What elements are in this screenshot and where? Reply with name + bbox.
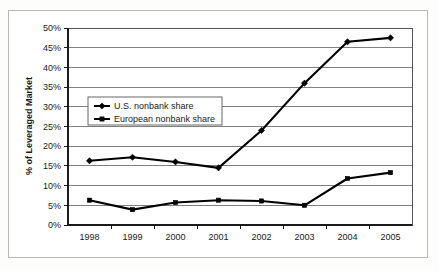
y-tick-label: 0% <box>48 220 61 230</box>
data-point-marker-square <box>130 208 134 212</box>
x-axis-tick-marks <box>111 225 369 229</box>
legend-label: European nonbank share <box>114 114 215 124</box>
data-point-marker-square <box>302 203 306 207</box>
x-tick-label: 2000 <box>165 232 185 242</box>
y-tick-label: 40% <box>43 63 61 73</box>
y-tick-label: 10% <box>43 181 61 191</box>
y-axis-title: % of Leveraged Market <box>24 77 34 175</box>
y-tick-label: 30% <box>43 102 61 112</box>
x-axis-tick-labels: 19981999200020012002200320042005 <box>79 232 400 242</box>
y-tick-label: 20% <box>43 141 61 151</box>
x-tick-label: 2004 <box>337 232 357 242</box>
line-chart: 0%5%10%15%20%25%30%35%40%45%50% 19981999… <box>0 0 439 271</box>
y-tick-label: 5% <box>48 201 61 211</box>
chart-legend: U.S. nonbank shareEuropean nonbank share <box>88 97 222 125</box>
y-tick-label: 50% <box>43 23 61 33</box>
y-tick-label: 25% <box>43 122 61 132</box>
chart-figure: 0%5%10%15%20%25%30%35%40%45%50% 19981999… <box>0 0 439 271</box>
data-point-marker-square <box>100 117 104 121</box>
data-point-marker-square <box>388 170 392 174</box>
x-tick-label: 2005 <box>380 232 400 242</box>
data-point-marker-square <box>87 198 91 202</box>
x-tick-label: 1998 <box>79 232 99 242</box>
y-tick-label: 35% <box>43 82 61 92</box>
data-point-marker-square <box>173 200 177 204</box>
y-tick-label: 45% <box>43 43 61 53</box>
legend-label: U.S. nonbank share <box>114 101 194 111</box>
x-tick-label: 1999 <box>122 232 142 242</box>
data-point-marker-square <box>259 199 263 203</box>
y-axis-tick-labels: 0%5%10%15%20%25%30%35%40%45%50% <box>43 23 61 230</box>
x-tick-label: 2001 <box>208 232 228 242</box>
y-tick-label: 15% <box>43 161 61 171</box>
data-point-marker-square <box>216 198 220 202</box>
x-tick-label: 2003 <box>294 232 314 242</box>
x-tick-label: 2002 <box>251 232 271 242</box>
data-point-marker-square <box>345 176 349 180</box>
